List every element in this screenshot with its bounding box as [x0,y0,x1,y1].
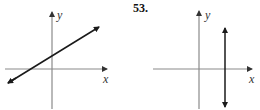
graph-right: 53. y x [130,0,260,110]
x-axis-label: x [249,73,254,85]
graph-left: y x [0,0,130,110]
coordinate-plane-right [130,0,260,110]
x-axis-label: x [103,73,108,85]
slanted-line-body [8,27,99,83]
coordinate-plane-left [0,0,130,110]
y-axis-label: y [57,9,62,21]
y-axis-label: y [205,9,210,21]
